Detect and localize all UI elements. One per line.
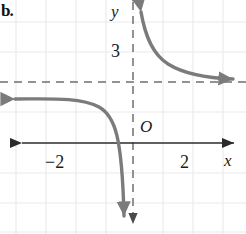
curve-lower-left	[15, 99, 124, 216]
hyperbola-curves	[15, 12, 233, 216]
graph-figure: b.	[0, 0, 246, 234]
origin-label: O	[140, 118, 152, 135]
x-tick-label-negative-2: −2	[45, 153, 64, 171]
y-axis-label: y	[111, 3, 119, 20]
coordinate-plane	[0, 0, 246, 234]
y-tick-label-3: 3	[111, 42, 120, 60]
x-axis-label: x	[224, 152, 232, 169]
x-tick-label-2: 2	[180, 153, 189, 171]
